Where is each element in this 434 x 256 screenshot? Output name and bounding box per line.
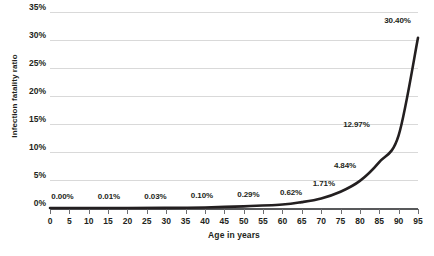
chart-container: Infection fatality ratio 35%30%25%20%15%… bbox=[0, 0, 434, 256]
data-point-label: 4.84% bbox=[334, 161, 356, 170]
data-point-label: 30.40% bbox=[384, 16, 411, 25]
data-point-label: 0.62% bbox=[280, 188, 302, 197]
data-point-label: 0.10% bbox=[191, 191, 213, 200]
data-point-label: 0.00% bbox=[51, 192, 73, 201]
data-point-label: 0.29% bbox=[237, 190, 259, 199]
data-point-label: 12.97% bbox=[343, 120, 370, 129]
data-point-label: 0.01% bbox=[98, 192, 120, 201]
data-point-label: 0.03% bbox=[144, 192, 166, 201]
data-point-label: 1.71% bbox=[313, 179, 335, 188]
